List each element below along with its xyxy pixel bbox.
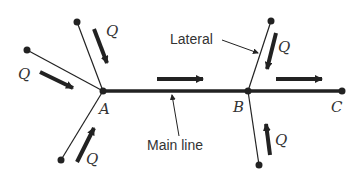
flow-label-q: Q (106, 22, 118, 40)
node-label-c: C (331, 98, 343, 116)
flow-label-q: Q (18, 65, 30, 83)
lateral-pipe-b-bottom (248, 91, 259, 165)
node-a-dot (100, 88, 107, 95)
flow-arrow-icon (266, 124, 270, 155)
lateral-end-dot (268, 18, 275, 25)
flow-label-q: Q (275, 131, 287, 149)
main-line-annotation: Main line (147, 137, 203, 153)
node-label-b: B (232, 98, 244, 116)
lateral-end-dot (24, 47, 31, 54)
node-label-a: A (97, 100, 110, 118)
main-line-leader-arrow (172, 95, 179, 136)
node-c-dot (339, 88, 346, 95)
pipe-network-diagram: Q Q Q Q Q A B C Lateral Main line (0, 0, 363, 176)
flow-label-q: Q (86, 150, 98, 168)
lateral-annotation: Lateral (170, 31, 213, 47)
flow-label-q: Q (278, 38, 290, 56)
lateral-end-dot (256, 162, 263, 169)
lateral-pipe-a-top (77, 22, 103, 91)
flow-arrow-icon (40, 72, 73, 88)
lateral-end-dot (58, 157, 65, 164)
node-b-dot (245, 88, 252, 95)
flow-arrow-icon (267, 33, 276, 69)
lateral-end-dot (74, 19, 81, 26)
lateral-pipe-b-top (248, 21, 271, 91)
lateral-leader-arrow (222, 40, 258, 53)
